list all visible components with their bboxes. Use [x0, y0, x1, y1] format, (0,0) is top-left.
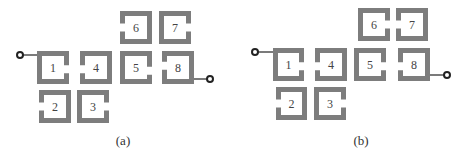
resonator-6: 6 — [123, 14, 150, 42]
resonator-4: 4 — [318, 51, 345, 79]
resonator-label: 7 — [409, 18, 415, 32]
resonator-label: 1 — [50, 61, 56, 75]
filter-diagram: 12345678(a) 12345678(b) — [0, 0, 465, 154]
input-port-icon — [252, 49, 258, 55]
panel-a: 12345678(a) — [17, 14, 213, 148]
resonator-6: 6 — [361, 11, 388, 39]
resonator-label: 4 — [93, 61, 99, 75]
resonator-2: 2 — [279, 90, 305, 118]
resonator-label: 2 — [289, 97, 295, 111]
panel-caption: (b) — [353, 133, 368, 148]
resonator-1: 1 — [40, 54, 67, 82]
resonator-4: 4 — [83, 54, 110, 82]
resonator-5: 5 — [357, 51, 384, 79]
output-port-icon — [444, 72, 450, 78]
resonator-label: 3 — [327, 97, 333, 111]
resonator-label: 8 — [411, 58, 417, 72]
resonator-3: 3 — [80, 93, 107, 121]
resonator-8: 8 — [401, 51, 428, 79]
resonator-label: 6 — [371, 18, 377, 32]
panel-b: 12345678(b) — [252, 11, 450, 148]
input-port-icon — [17, 52, 23, 58]
resonator-label: 3 — [90, 100, 96, 114]
resonator-label: 5 — [133, 61, 139, 75]
output-port-icon — [207, 76, 213, 82]
panel-caption: (a) — [116, 133, 130, 148]
resonator-label: 1 — [286, 58, 292, 72]
resonator-1: 1 — [276, 51, 302, 79]
resonator-5: 5 — [123, 54, 150, 82]
resonator-7: 7 — [162, 14, 189, 42]
resonator-2: 2 — [42, 93, 69, 121]
resonator-label: 7 — [172, 21, 178, 35]
resonator-label: 4 — [328, 58, 334, 72]
resonator-7: 7 — [399, 11, 426, 39]
resonator-label: 2 — [52, 100, 58, 114]
resonator-label: 6 — [133, 21, 139, 35]
resonator-8: 8 — [165, 54, 192, 82]
resonator-label: 8 — [175, 61, 181, 75]
resonator-label: 5 — [367, 58, 373, 72]
resonator-3: 3 — [317, 90, 344, 118]
